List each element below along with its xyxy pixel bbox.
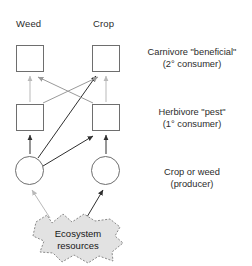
level-label-producer: Crop or weed (producer) <box>133 166 251 190</box>
node-crop-producer[interactable] <box>91 156 120 185</box>
column-header-crop: Crop <box>93 18 114 29</box>
level-label-producer-line1: Crop or weed <box>164 167 220 177</box>
level-label-carnivore-line2: (2° consumer) <box>133 58 251 70</box>
level-label-producer-line2: (producer) <box>133 178 251 190</box>
level-label-carnivore: Carnivore "beneficial" (2° consumer) <box>133 46 251 70</box>
edge-weed-producer-to-crop-carnivore <box>38 76 96 158</box>
level-label-carnivore-line1: Carnivore "beneficial" <box>148 47 237 57</box>
node-crop-herbivore[interactable] <box>92 104 120 131</box>
food-web-canvas <box>0 0 252 266</box>
column-header-weed: Weed <box>16 18 41 29</box>
ecosystem-resources-line1: Ecosystem <box>55 228 101 239</box>
level-label-herbivore-line2: (1° consumer) <box>133 118 251 130</box>
edge-crop-herbivore-to-weed-carnivore <box>38 77 93 103</box>
ecosystem-resources-label: Ecosystem resources <box>30 228 126 251</box>
node-weed-herbivore[interactable] <box>16 104 44 131</box>
level-label-herbivore: Herbivore "pest" (1° consumer) <box>133 106 251 130</box>
node-weed-carnivore[interactable] <box>16 45 44 72</box>
node-weed-producer[interactable] <box>15 156 44 185</box>
node-crop-carnivore[interactable] <box>92 45 120 72</box>
level-label-herbivore-line1: Herbivore "pest" <box>158 107 225 117</box>
edge-weed-herbivore-to-crop-carnivore <box>43 77 98 103</box>
ecosystem-resources-line2: resources <box>30 240 126 252</box>
edge-resources-to-weed-producer <box>32 190 50 218</box>
